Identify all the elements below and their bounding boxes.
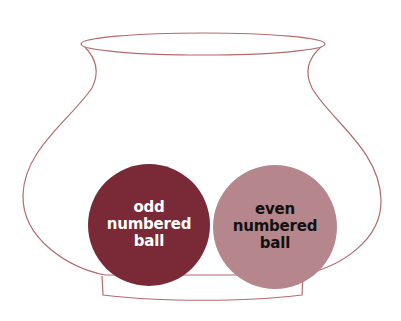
even-ball-label: even numbered ball <box>220 201 330 252</box>
pot-diagram <box>0 0 401 321</box>
even-ball-label-line-2: numbered <box>220 218 330 235</box>
odd-ball-label-line-2: numbered <box>94 216 204 233</box>
even-ball-label-line-1: even <box>220 201 330 218</box>
odd-ball-label-line-1: odd <box>94 199 204 216</box>
odd-ball-label: odd numbered ball <box>94 199 204 250</box>
pot-rim <box>81 33 325 55</box>
odd-ball-label-line-3: ball <box>94 233 204 250</box>
even-ball-label-line-3: ball <box>220 235 330 252</box>
